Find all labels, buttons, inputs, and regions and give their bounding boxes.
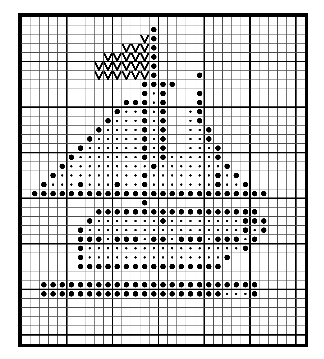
pattern-grid-canvas[interactable]: [21, 16, 305, 344]
pattern-chart-frame: [18, 13, 308, 347]
pattern-grid[interactable]: [21, 16, 305, 344]
chart-page: [0, 0, 324, 359]
